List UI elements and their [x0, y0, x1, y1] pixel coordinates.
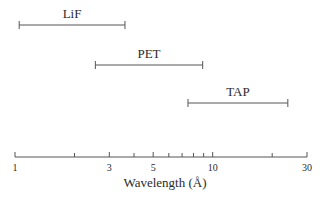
tick-label: 1: [13, 162, 18, 173]
x-axis-ticks: 1351030: [13, 152, 313, 173]
range-label: TAP: [226, 84, 250, 99]
x-axis-label: Wavelength (Å): [123, 175, 206, 190]
tick-label: 3: [107, 162, 112, 173]
range-label: PET: [137, 46, 160, 61]
wavelength-range-chart: LiFPETTAP 1351030 Wavelength (Å): [0, 0, 320, 199]
range-label: LiF: [63, 6, 82, 21]
range-bar-lif: LiF: [19, 6, 125, 29]
range-bar-tap: TAP: [188, 84, 288, 107]
tick-label: 30: [302, 162, 312, 173]
crystal-ranges: LiFPETTAP: [19, 6, 288, 107]
tick-label: 5: [151, 162, 156, 173]
tick-label: 10: [208, 162, 218, 173]
x-axis: 1351030 Wavelength (Å): [13, 152, 313, 190]
range-bar-pet: PET: [95, 46, 202, 69]
